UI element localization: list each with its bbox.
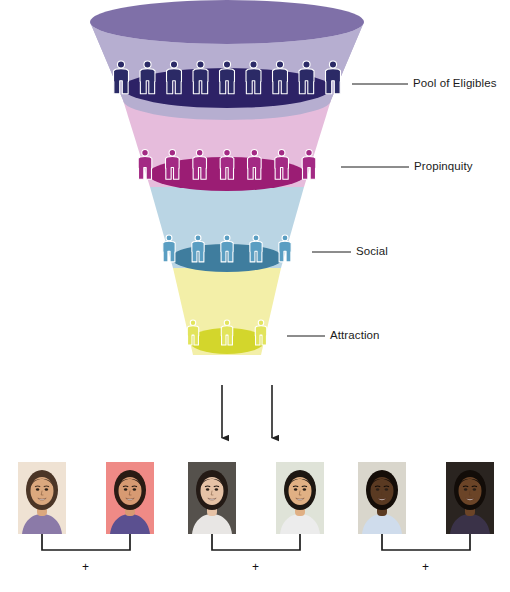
plus-sign-couple-2: + (252, 561, 259, 573)
portrait-photo-person-3 (188, 462, 236, 534)
plus-sign-couple-1: + (82, 561, 89, 573)
couple-bracket-2 (212, 534, 300, 550)
portrait-image (188, 462, 236, 534)
portrait-photo-person-1 (18, 462, 66, 534)
portrait-image (18, 462, 66, 534)
portrait-photo-person-5 (358, 462, 406, 534)
portrait-photo-person-2 (106, 462, 154, 534)
portrait-photo-person-4 (276, 462, 324, 534)
portrait-image (358, 462, 406, 534)
couple-bracket-3 (382, 534, 470, 550)
couple-bracket-1 (42, 534, 130, 550)
portrait-photo-person-6 (446, 462, 494, 534)
portrait-image (276, 462, 324, 534)
mate-selection-funnel-figure: Pool of Eligibles Propinquity Social Att… (0, 0, 510, 592)
portrait-image (106, 462, 154, 534)
connectors-graphic (0, 0, 510, 592)
portrait-image (446, 462, 494, 534)
plus-sign-couple-3: + (422, 561, 429, 573)
